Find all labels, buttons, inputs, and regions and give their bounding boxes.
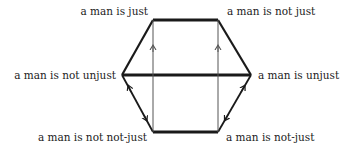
- edge-lower-left: [122, 75, 153, 132]
- label-top-right: a man is not just: [227, 5, 316, 17]
- edge-upper-right: [218, 20, 251, 75]
- label-right: a man is unjust: [258, 69, 340, 81]
- arrow-icon: [241, 86, 245, 92]
- edge-lower-right: [218, 75, 251, 132]
- label-bottom-right: a man is not-just: [226, 131, 315, 143]
- label-bottom-left: a man is not not-just: [38, 131, 148, 143]
- edge-upper-left: [122, 20, 153, 75]
- label-top-left: a man is just: [80, 5, 148, 17]
- label-left: a man is not unjust: [14, 69, 117, 81]
- hexagon-diagram: a man is just a man is not just a man is…: [0, 0, 351, 151]
